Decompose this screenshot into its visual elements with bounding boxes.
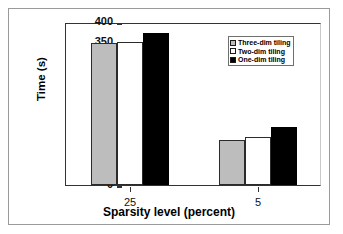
bar: [219, 140, 245, 185]
bar: [91, 43, 117, 185]
y-axis-title: Time (s): [35, 39, 47, 119]
legend-swatch-icon: [230, 57, 236, 63]
legend-entry: One-dim tiling: [230, 56, 291, 64]
bar: [271, 127, 297, 185]
legend-swatch-icon: [230, 40, 236, 46]
x-tick-mark: [130, 187, 131, 192]
chart-legend: Three-dim tilingTwo-dim tilingOne-dim ti…: [228, 36, 294, 66]
bar: [117, 42, 143, 185]
x-axis-title: Sparsity level (percent): [9, 205, 329, 219]
y-tick-mark: [117, 186, 122, 188]
legend-swatch-icon: [230, 48, 236, 54]
legend-entry: Two-dim tiling: [230, 47, 291, 55]
legend-label: Three-dim tiling: [238, 39, 291, 46]
legend-label: One-dim tiling: [238, 56, 285, 63]
x-tick-mark: [258, 187, 259, 192]
legend-entry: Three-dim tiling: [230, 39, 291, 47]
y-tick-mark: [117, 23, 122, 25]
legend-label: Two-dim tiling: [238, 48, 285, 55]
bar: [143, 33, 169, 185]
chart-figure: Time (s) 050100150200250300350400 255 Sp…: [8, 8, 330, 225]
bar: [245, 137, 271, 185]
y-tick-label: 400: [95, 16, 113, 27]
